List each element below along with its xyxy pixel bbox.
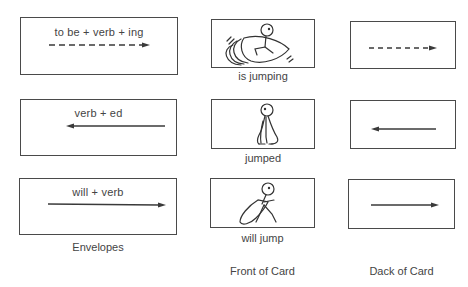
front-card-2-caption: jumped <box>211 152 315 164</box>
stick-figure-jumping-icon <box>211 19 315 68</box>
solid-arrow-left-icon <box>350 100 456 149</box>
back-card-2 <box>350 100 456 149</box>
front-card-2 <box>211 99 315 149</box>
back-card-1 <box>350 21 456 69</box>
envelopes-column-title: Envelopes <box>19 241 177 253</box>
solid-arrow-left-icon <box>20 99 177 156</box>
back-card-3 <box>348 179 455 229</box>
front-card-1-caption: is jumping <box>211 70 315 82</box>
solid-arrow-right-icon <box>348 179 455 229</box>
envelope-2: verb + ed <box>20 99 177 156</box>
solid-arrow-right-icon <box>19 178 177 235</box>
stick-figure-crouching-icon <box>210 178 315 228</box>
front-card-3-caption: will jump <box>210 232 315 244</box>
dashed-arrow-right-icon <box>350 21 456 69</box>
front-card-1 <box>211 19 315 68</box>
back-of-card-column-title: Dack of Card <box>348 265 455 277</box>
dashed-arrow-right-icon <box>20 17 178 75</box>
stick-figure-landed-icon <box>211 99 315 149</box>
front-card-3 <box>210 178 315 228</box>
envelope-1: to be + verb + ing <box>20 17 178 75</box>
front-of-card-column-title: Front of Card <box>210 265 315 277</box>
envelope-3: will + verb <box>19 178 177 235</box>
